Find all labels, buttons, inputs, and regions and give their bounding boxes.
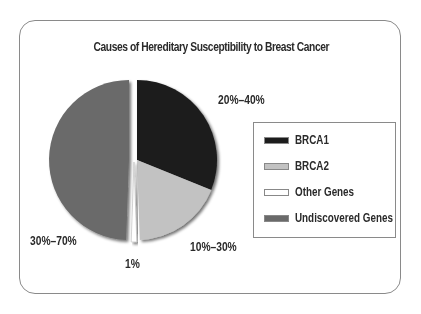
legend-label: Other Genes — [295, 185, 354, 199]
legend-item-undiscovered-genes: Undiscovered Genes — [264, 211, 414, 225]
legend-label: BRCA2 — [295, 159, 329, 173]
legend-swatch-brca2 — [264, 163, 289, 170]
slice-other-genes — [131, 162, 137, 242]
legend: BRCA1 BRCA2 Other Genes Undiscovered Gen… — [253, 122, 396, 238]
legend-swatch-other-genes — [264, 189, 289, 196]
label-brca1: 20%–40% — [218, 93, 265, 107]
legend-label: BRCA1 — [295, 133, 329, 147]
legend-label: Undiscovered Genes — [295, 211, 393, 225]
legend-item-other-genes: Other Genes — [264, 185, 367, 199]
label-other-genes: 1% — [125, 257, 140, 271]
legend-item-brca2: BRCA2 — [264, 159, 336, 173]
legend-swatch-undiscovered-genes — [264, 215, 289, 222]
legend-item-brca1: BRCA1 — [264, 133, 336, 147]
slice-undiscovered-genes — [49, 80, 129, 240]
label-brca2: 10%–30% — [190, 240, 237, 254]
legend-swatch-brca1 — [264, 137, 289, 144]
label-undiscovered-genes: 30%–70% — [30, 234, 77, 248]
